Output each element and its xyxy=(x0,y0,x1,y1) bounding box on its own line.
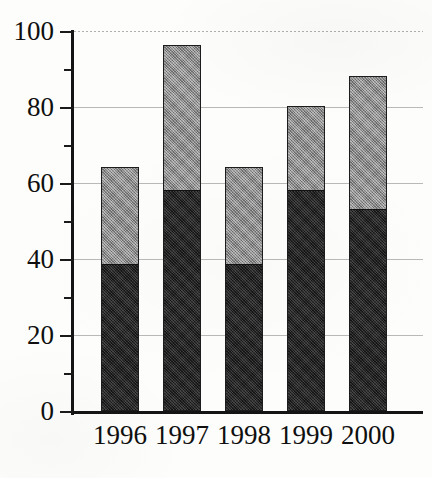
bar-1999[interactable] xyxy=(287,106,325,411)
bar-chart-figure: 100 80 60 40 20 0 1996 1997 1998 1999 20… xyxy=(0,0,432,478)
y-tick-80 xyxy=(60,107,73,109)
y-tick-10 xyxy=(64,373,73,375)
bar-1999-upper-segment xyxy=(288,107,324,190)
bar-1997[interactable] xyxy=(163,45,201,411)
y-tick-label-40: 40 xyxy=(27,246,54,273)
bar-1997-lower-segment xyxy=(164,191,200,411)
bar-1998-upper-segment xyxy=(226,168,262,264)
y-tick-40 xyxy=(60,259,73,261)
bar-2000-lower-segment xyxy=(350,210,386,411)
bar-1998-lower-segment xyxy=(226,265,262,411)
bar-1996[interactable] xyxy=(101,167,139,411)
y-tick-label-0: 0 xyxy=(41,398,55,425)
y-tick-0 xyxy=(60,411,73,413)
y-tick-60 xyxy=(60,183,73,185)
y-tick-50 xyxy=(64,221,73,223)
bar-1996-lower-segment xyxy=(102,265,138,411)
x-tick-label-2000: 2000 xyxy=(328,420,408,450)
bar-1997-upper-segment xyxy=(164,46,200,190)
bar-2000[interactable] xyxy=(349,76,387,411)
y-tick-90 xyxy=(64,69,73,71)
bar-2000-upper-segment xyxy=(350,77,386,209)
y-tick-100 xyxy=(60,31,73,33)
x-axis-line xyxy=(71,411,423,414)
y-tick-label-100: 100 xyxy=(14,18,55,45)
bar-1996-upper-segment xyxy=(102,168,138,264)
y-tick-label-60: 60 xyxy=(27,170,54,197)
bar-1998[interactable] xyxy=(225,167,263,411)
y-tick-70 xyxy=(64,145,73,147)
y-tick-20 xyxy=(60,335,73,337)
bar-1999-lower-segment xyxy=(288,191,324,411)
y-tick-30 xyxy=(64,297,73,299)
y-tick-label-80: 80 xyxy=(27,94,54,121)
gridline-100 xyxy=(74,31,423,32)
y-tick-label-20: 20 xyxy=(27,322,54,349)
